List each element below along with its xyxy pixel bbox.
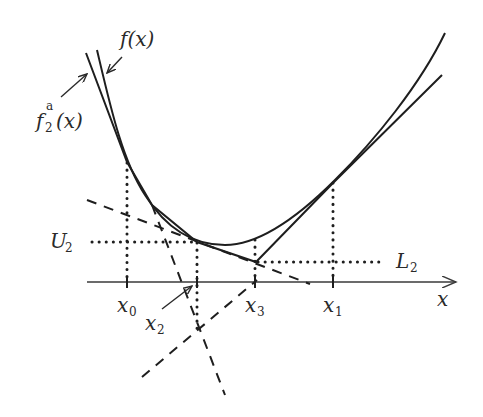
svg-text:2: 2 <box>45 121 53 135</box>
svg-text:2: 2 <box>65 241 73 255</box>
svg-text:a: a <box>46 99 53 113</box>
svg-text:x: x <box>245 293 256 317</box>
svg-text:x: x <box>323 293 334 317</box>
dashed-tangent-steep <box>152 205 225 395</box>
arrow-f2a <box>61 74 87 97</box>
label-f: f(x) <box>118 27 154 51</box>
label-x0: x 0 <box>117 293 137 319</box>
arrow-f <box>107 57 122 73</box>
svg-text:1: 1 <box>335 305 343 319</box>
label-x1: x 1 <box>323 293 343 319</box>
curve-f <box>97 33 445 245</box>
svg-text:0: 0 <box>129 305 137 319</box>
svg-text:x: x <box>145 311 156 335</box>
label-x2: x 2 <box>145 311 165 337</box>
svg-text:3: 3 <box>257 305 265 319</box>
label-U2: U 2 <box>50 229 73 255</box>
svg-text:L: L <box>395 249 409 273</box>
svg-text:2: 2 <box>410 261 418 275</box>
svg-text:(x): (x) <box>56 109 83 133</box>
svg-text:x: x <box>117 293 128 317</box>
label-f2a: f a 2 (x) <box>34 99 83 135</box>
label-L2: L 2 <box>395 249 418 275</box>
label-x-axis: x <box>437 287 448 311</box>
label-x3: x 3 <box>245 293 265 319</box>
diagram-figure: f(x) f a 2 (x) U 2 L 2 x x 0 x 2 x 3 x 1 <box>0 0 483 417</box>
curve-f2a-approximation <box>86 53 442 262</box>
svg-text:2: 2 <box>157 323 165 337</box>
